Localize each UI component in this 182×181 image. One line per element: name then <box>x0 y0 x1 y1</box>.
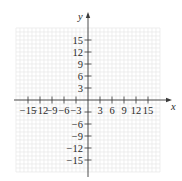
coordinate-plane: −15−12−9−6−33691215 1512963−6−9−12−15 x … <box>0 0 182 181</box>
y-tick-label: 6 <box>78 71 83 82</box>
y-tick-label: −9 <box>72 131 83 142</box>
y-tick-label: −12 <box>67 143 83 154</box>
x-tick-label: −6 <box>58 105 69 116</box>
y-tick-label: 12 <box>73 47 84 58</box>
x-tick-label: 6 <box>109 105 114 116</box>
x-tick-label: 12 <box>131 105 142 116</box>
y-tick-label: 3 <box>78 83 83 94</box>
y-tick-label: −6 <box>72 119 83 130</box>
y-axis-arrow-icon <box>86 12 90 18</box>
x-tick-label: −3 <box>70 105 81 116</box>
x-axis-label: x <box>170 101 176 112</box>
x-tick-label: −9 <box>46 105 57 116</box>
y-axis-label: y <box>77 11 83 22</box>
x-tick-label: 9 <box>121 105 126 116</box>
x-tick-label: 3 <box>97 105 102 116</box>
y-tick-label: 9 <box>78 59 83 70</box>
x-ticks: −15−12−9−6−33691215 <box>20 97 153 117</box>
x-tick-label: 15 <box>143 105 154 116</box>
y-tick-label: −15 <box>67 155 83 166</box>
y-tick-label: 15 <box>73 35 84 46</box>
